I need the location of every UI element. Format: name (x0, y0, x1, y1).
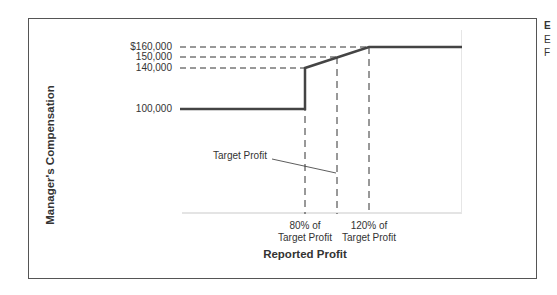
side-text-3: F (544, 47, 550, 59)
y-tick-140000: 140,000 (102, 63, 172, 73)
y-tick-100000: 100,000 (102, 104, 172, 114)
x-tick-80-line2: Target Profit (270, 232, 340, 244)
x-tick-80-percent: 80% of Target Profit (270, 220, 340, 244)
target-profit-leader (272, 159, 336, 173)
x-tick-120-line1: 120% of (334, 220, 404, 232)
vertical-reference-lines (305, 47, 369, 214)
y-tick-150000: 150,000 (102, 52, 172, 62)
side-text-2: E (544, 34, 551, 46)
y-axis-label: Manager's Compensation (44, 85, 56, 224)
target-profit-annotation: Target Profit (213, 150, 267, 161)
compensation-line (180, 47, 462, 109)
x-tick-120-line2: Target Profit (334, 232, 404, 244)
x-tick-80-line1: 80% of (270, 220, 340, 232)
x-axis-label: Reported Profit (240, 248, 370, 260)
side-text-1: E (544, 20, 551, 32)
x-tick-120-percent: 120% of Target Profit (334, 220, 404, 244)
